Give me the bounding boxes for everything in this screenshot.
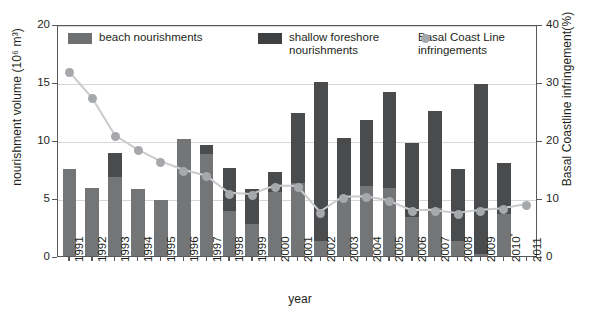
x-tickmark [503, 257, 504, 261]
marker-dot-2007 [431, 207, 440, 216]
x-tick-1994: 1994 [142, 236, 154, 262]
x-axis-title: year [0, 292, 600, 306]
marker-dot-1999 [248, 191, 257, 200]
legend-item-0: beach nourishments [68, 31, 203, 44]
x-tickmark [366, 257, 367, 261]
x-tick-2005: 2005 [393, 236, 405, 262]
legend: beach nourishmentsshallow foreshore nour… [58, 26, 536, 62]
x-tick-2008: 2008 [462, 236, 474, 262]
x-tick-1997: 1997 [211, 236, 223, 262]
x-tick-2007: 2007 [439, 236, 451, 262]
y2-tickmark [537, 141, 542, 142]
x-tick-2009: 2009 [485, 236, 497, 262]
y-tick-20: 20 [24, 19, 50, 30]
x-tick-2000: 2000 [279, 236, 291, 262]
y2-tick-20: 20 [546, 135, 572, 146]
y-tickmark [52, 257, 57, 258]
x-tickmark [480, 257, 481, 261]
y2-tick-0: 0 [546, 251, 572, 262]
y2-axis-title: Basal Coastline infringement(%) [560, 0, 574, 214]
x-tickmark [434, 257, 435, 261]
x-tick-2004: 2004 [371, 236, 383, 262]
y-tick-5: 5 [24, 193, 50, 204]
x-tickmark [411, 257, 412, 261]
x-tickmark [343, 257, 344, 261]
x-tick-1993: 1993 [119, 236, 131, 262]
y2-tick-10: 10 [546, 193, 572, 204]
marker-dot-1991 [65, 68, 74, 77]
x-tickmark [320, 257, 321, 261]
x-tick-2011: 2011 [531, 237, 543, 262]
y-tick-15: 15 [24, 77, 50, 88]
x-tickmark [183, 257, 184, 261]
marker-dot-1996 [179, 167, 188, 176]
x-tickmark [388, 257, 389, 261]
legend-item-1: shallow foreshore nourishments [258, 31, 379, 56]
marker-dot-1992 [88, 94, 97, 103]
marker-dot-2006 [408, 207, 417, 216]
x-tick-1995: 1995 [165, 236, 177, 262]
circle-dot-gray-icon [421, 34, 430, 43]
y2-tick-40: 40 [546, 19, 572, 30]
plot-area: beach nourishmentsshallow foreshore nour… [57, 25, 537, 257]
marker-dot-1993 [111, 132, 120, 141]
y-axis-title: nourishment volume (10⁶ m³) [10, 0, 24, 222]
legend-label: beach nourishments [99, 31, 203, 44]
marker-dot-2000 [271, 183, 280, 192]
x-tick-2010: 2010* [508, 233, 522, 262]
x-tickmark [206, 257, 207, 261]
marker-connector-line [69, 72, 524, 213]
x-tick-2006: 2006 [416, 236, 428, 262]
legend-item-2: Basal Coast Line infringements [418, 31, 505, 56]
legend-label: Basal Coast Line infringements [418, 31, 505, 56]
marker-dot-2001 [294, 183, 303, 192]
x-tickmark [297, 257, 298, 261]
x-tickmark [457, 257, 458, 261]
marker-dot-1998 [225, 190, 234, 199]
chart-figure: { "chart_data": { "type": "bar", "title"… [0, 0, 600, 309]
y2-tickmark [537, 199, 542, 200]
marker-dot-2008 [454, 210, 463, 219]
x-tick-2002: 2002 [325, 236, 337, 262]
x-tick-1991: 1991 [73, 236, 85, 262]
y-tick-10: 10 [24, 135, 50, 146]
x-tickmark [526, 257, 527, 261]
square-swatch-light-icon [68, 33, 92, 44]
x-tickmark [228, 257, 229, 261]
x-tickmark [91, 257, 92, 261]
x-tick-1998: 1998 [233, 236, 245, 262]
x-tickmark [274, 257, 275, 261]
legend-label: shallow foreshore nourishments [289, 31, 379, 56]
square-swatch-dark-icon [258, 33, 282, 44]
x-tick-1996: 1996 [188, 236, 200, 262]
x-tick-2003: 2003 [348, 236, 360, 262]
marker-dot-2003 [339, 194, 348, 203]
x-tickmark [251, 257, 252, 261]
x-tickmark [137, 257, 138, 261]
y2-tick-30: 30 [546, 77, 572, 88]
marker-dot-1994 [134, 146, 143, 155]
x-tick-1992: 1992 [96, 236, 108, 262]
y2-tickmark [537, 25, 542, 26]
y-tick-0: 0 [24, 251, 50, 262]
y2-tickmark [537, 83, 542, 84]
x-tick-1999: 1999 [256, 236, 268, 262]
x-tickmark [114, 257, 115, 261]
x-tickmark [68, 257, 69, 261]
x-tick-2001: 2001 [302, 236, 314, 262]
x-tickmark [160, 257, 161, 261]
